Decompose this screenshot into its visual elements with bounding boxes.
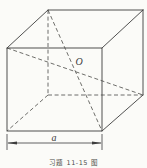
dimension-edge-a: a — [7, 132, 102, 150]
dimension-arrow-left — [7, 141, 17, 144]
figure-panel: O a 习题 11-15 图 — [0, 0, 147, 168]
edge-top-right — [102, 10, 143, 48]
edge-bottom-right — [102, 95, 143, 131]
figure-caption: 习题 11-15 图 — [0, 157, 147, 167]
dimension-arrow-right — [92, 141, 102, 144]
edge-top-left — [7, 10, 48, 48]
center-point-label: O — [75, 56, 82, 67]
edge-length-label: a — [52, 132, 57, 143]
cube-diagram: O a — [0, 0, 147, 168]
hidden-edge-bottom-left — [7, 95, 48, 131]
diagonal-backtopleft-frontbottomright — [48, 10, 102, 131]
